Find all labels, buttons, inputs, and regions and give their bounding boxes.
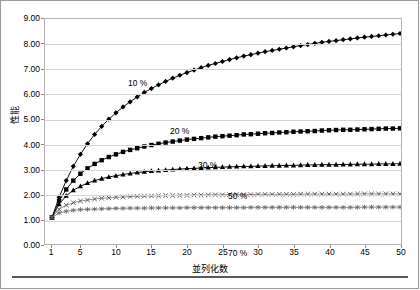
x-axis-title: 並列化数 bbox=[0, 262, 420, 275]
plot-svg bbox=[45, 19, 401, 244]
y-tick-label: 6.00 bbox=[4, 90, 40, 99]
bottom-divider bbox=[12, 276, 408, 278]
series-annotation-30: 30 % bbox=[198, 160, 217, 170]
chart-figure: 性能 0.00 1.00 2.00 3.00 4.00 5.00 6.00 7.… bbox=[0, 0, 420, 290]
series-annotation-10: 10 % bbox=[128, 78, 147, 88]
y-tick-label: 2.00 bbox=[4, 191, 40, 200]
series-70 bbox=[50, 205, 401, 220]
y-tick-label: 0.00 bbox=[4, 241, 40, 250]
series-annotation-50: 50 % bbox=[228, 191, 247, 201]
gridline bbox=[45, 44, 401, 45]
y-tick-label: 8.00 bbox=[4, 40, 40, 49]
gridline bbox=[45, 195, 401, 196]
x-tick-label: 50 bbox=[389, 248, 413, 257]
x-tick-label: 40 bbox=[318, 248, 342, 257]
gridline bbox=[45, 69, 401, 70]
y-tick-label: 3.00 bbox=[4, 166, 40, 175]
gridline bbox=[45, 221, 401, 222]
x-tick-label: 5 bbox=[68, 248, 92, 257]
y-tick-label: 5.00 bbox=[4, 115, 40, 124]
x-tick-label: 30 bbox=[246, 248, 270, 257]
plot-area bbox=[44, 18, 402, 245]
y-tick-label: 1.00 bbox=[4, 216, 40, 225]
x-tick-label: 35 bbox=[282, 248, 306, 257]
y-tick-mark bbox=[41, 245, 44, 246]
series-20 bbox=[50, 126, 401, 220]
gridline bbox=[45, 94, 401, 95]
series-annotation-20: 20 % bbox=[170, 126, 189, 136]
x-tick-label: 20 bbox=[175, 248, 199, 257]
gridline bbox=[45, 145, 401, 146]
y-tick-label: 9.00 bbox=[4, 14, 40, 23]
y-tick-label: 4.00 bbox=[4, 141, 40, 150]
gridline bbox=[45, 120, 401, 121]
x-tick-label: 45 bbox=[353, 248, 377, 257]
x-tick-label: 10 bbox=[104, 248, 128, 257]
y-tick-label: 7.00 bbox=[4, 65, 40, 74]
gridline bbox=[45, 170, 401, 171]
series-annotation-70: 70 % bbox=[228, 248, 247, 258]
x-tick-label: 15 bbox=[139, 248, 163, 257]
x-tick-label: 1 bbox=[39, 248, 63, 257]
